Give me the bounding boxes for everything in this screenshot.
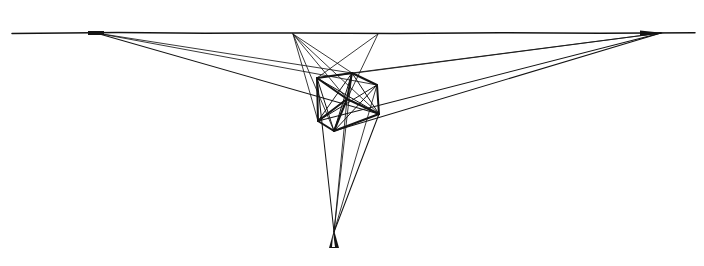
horizon-line <box>12 33 695 34</box>
ray-vpl-to-cube-lower <box>96 33 379 114</box>
ray-nadir-from-top-left <box>317 78 334 232</box>
left-vanishing-point-marker <box>88 31 104 35</box>
ray-vpr-to-cube-left <box>317 33 661 78</box>
cube-outer-silhouette <box>317 73 379 131</box>
ray-mpl-c <box>293 34 347 99</box>
ray-mpl-b <box>293 34 352 73</box>
ray-vpr-to-cube-bottom <box>334 33 661 131</box>
vanishing-point-markers <box>88 31 664 249</box>
ray-mpl-e <box>293 34 318 121</box>
ray-mpl-d <box>293 34 334 131</box>
perspective-drawing-figure: Three-point perspective construction of … <box>0 0 704 266</box>
ray-vpr-to-cube-mid-left <box>318 33 661 121</box>
right-measuring-point-rays <box>317 34 378 99</box>
perspective-construction-canvas <box>0 0 704 266</box>
horizon-line-group <box>12 33 695 34</box>
left-vanishing-point-rays <box>96 33 379 114</box>
cube-solid <box>317 73 379 131</box>
ray-vpl-to-cube-upper <box>96 33 377 85</box>
